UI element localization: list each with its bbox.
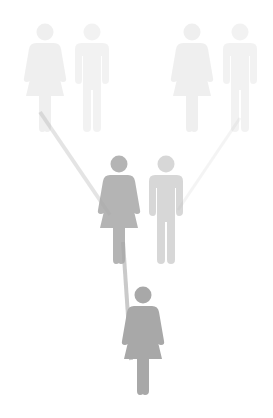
grandfather-2-figure [223,24,257,133]
father-figure [149,156,183,265]
pedigree-diagram [0,0,273,418]
link-grandfather2-father [178,118,240,210]
mother-figure [98,156,140,265]
grandmother-1-figure [24,24,66,133]
grandmother-2-figure [171,24,213,133]
grandfather-1-figure [75,24,109,133]
